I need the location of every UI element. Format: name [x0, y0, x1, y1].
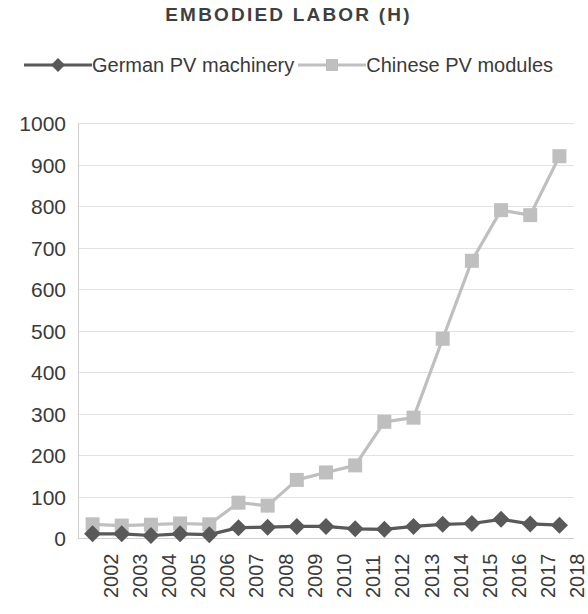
x-tick-label-2015: 2015	[480, 554, 500, 599]
x-tick-label-2010: 2010	[334, 554, 354, 599]
x-tick-label-2014: 2014	[451, 554, 471, 599]
x-tick-label-2012: 2012	[392, 554, 412, 599]
x-tick-label-2011: 2011	[363, 555, 383, 598]
x-tick-label-2006: 2006	[217, 554, 237, 599]
x-tick-label-2009: 2009	[305, 554, 325, 599]
x-tick-label-2013: 2013	[422, 554, 442, 599]
x-tick-label-2008: 2008	[276, 554, 296, 599]
x-tick-label-2002: 2002	[101, 554, 121, 599]
x-tick-label-2016: 2016	[509, 554, 529, 599]
x-tick-label-2005: 2005	[188, 554, 208, 599]
x-tick-label-2003: 2003	[130, 554, 150, 599]
x-tick-label-2007: 2007	[246, 554, 266, 599]
x-tick-label-2018: 2018	[567, 554, 587, 599]
x-tick-label-2017: 2017	[538, 554, 558, 599]
x-tick-label-2004: 2004	[159, 554, 179, 599]
